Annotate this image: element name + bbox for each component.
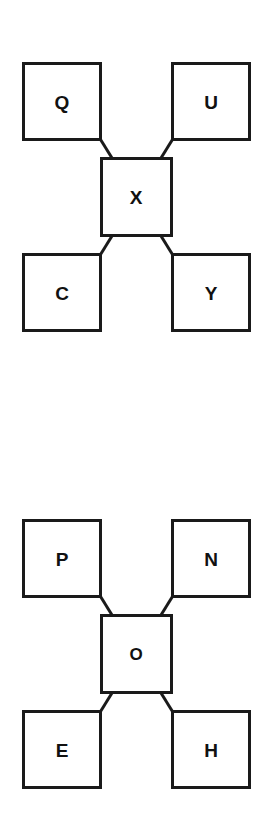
node-top-right-label: U bbox=[204, 92, 218, 113]
connector-center-to-top-left bbox=[101, 597, 113, 616]
node-bottom-left-label: C bbox=[55, 283, 69, 304]
node-bottom-right-label: Y bbox=[205, 283, 218, 304]
node-top-right[interactable]: N bbox=[173, 521, 250, 597]
connector-center-to-bottom-right bbox=[161, 236, 173, 255]
node-top-left[interactable]: Q bbox=[24, 64, 101, 140]
connector-center-to-bottom-left bbox=[101, 693, 113, 712]
node-bottom-right[interactable]: Y bbox=[173, 255, 250, 331]
connector-center-to-top-right bbox=[161, 140, 173, 159]
node-center-label: O bbox=[129, 645, 142, 664]
connector-center-to-top-right bbox=[161, 597, 173, 616]
page-root: Q U X C Y P bbox=[0, 0, 269, 823]
node-top-left-label: Q bbox=[55, 92, 70, 113]
connector-center-to-bottom-left bbox=[101, 236, 113, 255]
node-bottom-left[interactable]: E bbox=[24, 712, 101, 788]
node-diagram-bottom: P N O E H bbox=[0, 457, 269, 823]
node-bottom-left-label: E bbox=[56, 740, 69, 761]
node-top-left-label: P bbox=[56, 549, 69, 570]
node-top-right-label: N bbox=[204, 549, 218, 570]
node-top-left[interactable]: P bbox=[24, 521, 101, 597]
node-bottom-right-label: H bbox=[204, 740, 218, 761]
node-center-label: X bbox=[130, 187, 143, 208]
connector-center-to-top-left bbox=[101, 140, 113, 159]
node-bottom-left[interactable]: C bbox=[24, 255, 101, 331]
node-top-right[interactable]: U bbox=[173, 64, 250, 140]
node-center[interactable]: X bbox=[102, 159, 172, 236]
node-bottom-right[interactable]: H bbox=[173, 712, 250, 788]
node-diagram-top: Q U X C Y bbox=[0, 0, 269, 360]
node-center[interactable]: O bbox=[102, 616, 172, 693]
connector-center-to-bottom-right bbox=[161, 693, 173, 712]
